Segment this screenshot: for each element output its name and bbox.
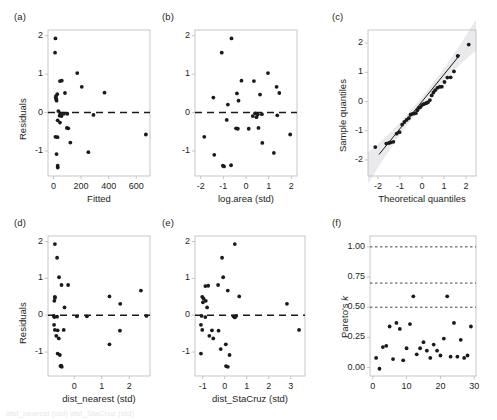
data-point	[226, 365, 230, 369]
data-point	[80, 85, 84, 89]
data-point	[56, 109, 60, 113]
data-point	[418, 346, 422, 350]
data-point	[251, 114, 255, 118]
data-point	[387, 141, 391, 145]
data-point	[234, 126, 238, 130]
data-point	[442, 337, 446, 341]
data-point	[425, 349, 429, 353]
data-point	[374, 356, 378, 360]
data-point	[288, 133, 292, 137]
data-point	[118, 329, 122, 333]
y-tick-label: 2	[320, 37, 363, 47]
data-point	[60, 79, 64, 83]
data-point	[62, 112, 66, 116]
data-point	[373, 145, 377, 149]
data-point	[86, 150, 90, 154]
data-point	[211, 337, 215, 341]
data-point	[54, 135, 58, 139]
data-point	[384, 142, 388, 146]
data-point	[199, 352, 203, 356]
data-point	[57, 337, 61, 341]
data-point	[400, 123, 404, 127]
panel-e-frame	[195, 236, 305, 376]
data-point	[415, 108, 419, 112]
data-point	[240, 79, 244, 83]
data-point	[422, 340, 426, 344]
data-point	[108, 342, 112, 346]
data-point	[391, 357, 395, 361]
panel-a-ylabel: Residuals	[17, 98, 28, 140]
data-point	[55, 256, 59, 260]
data-point	[200, 328, 204, 332]
data-point	[445, 76, 449, 80]
data-point	[435, 349, 439, 353]
data-point	[277, 91, 281, 95]
data-point	[55, 92, 59, 96]
data-point	[272, 151, 276, 155]
data-point	[402, 120, 406, 124]
data-point	[220, 51, 224, 55]
data-point	[391, 140, 395, 144]
data-point	[52, 299, 56, 303]
data-point	[257, 126, 261, 130]
data-point	[237, 295, 241, 299]
data-point	[65, 126, 69, 130]
data-point	[384, 344, 388, 348]
panel-c-frame	[368, 30, 476, 176]
data-point	[222, 164, 226, 168]
panel-label-f: (f)	[332, 217, 341, 228]
data-point	[55, 99, 59, 103]
data-point	[52, 323, 56, 327]
figure-canvas: (a)0200400600-1012FittedResiduals(b)-2-1…	[0, 0, 497, 420]
data-point	[52, 314, 56, 318]
data-point	[58, 353, 62, 357]
data-point	[205, 306, 209, 310]
data-point	[425, 101, 429, 105]
data-point	[226, 289, 230, 293]
data-point	[54, 334, 58, 338]
data-point	[405, 118, 409, 122]
data-point	[252, 79, 256, 83]
panel-d-plot	[0, 0, 497, 420]
data-point	[210, 328, 214, 332]
data-point	[226, 103, 230, 107]
data-point	[395, 132, 399, 136]
data-point	[207, 334, 211, 338]
data-point	[139, 289, 143, 293]
panel-a-frame	[48, 30, 150, 176]
data-point	[59, 111, 63, 115]
data-point	[432, 343, 436, 347]
data-point	[445, 294, 449, 298]
data-point	[388, 325, 392, 329]
data-point	[203, 315, 207, 319]
x-tick-label: 2	[109, 381, 149, 391]
data-point	[459, 338, 463, 342]
data-point	[53, 328, 57, 332]
y-tick-label: 1	[147, 272, 190, 282]
data-point	[229, 163, 233, 167]
data-point	[118, 302, 122, 306]
data-point	[258, 93, 262, 97]
data-point	[275, 113, 279, 117]
data-point	[60, 114, 64, 118]
data-point	[462, 356, 466, 360]
y-tick-label: -1	[0, 145, 43, 155]
data-point	[92, 113, 96, 117]
data-point	[428, 356, 432, 360]
panel-d-frame	[48, 236, 150, 376]
data-point	[58, 114, 62, 118]
data-point	[467, 43, 471, 47]
data-point	[60, 283, 64, 287]
data-point	[440, 85, 444, 89]
data-point	[266, 71, 270, 75]
data-point	[398, 327, 402, 331]
data-point	[56, 328, 60, 332]
x-tick-label: 2	[271, 181, 311, 191]
panel-f-plot	[0, 0, 497, 420]
data-point	[449, 355, 453, 359]
data-point	[224, 342, 228, 346]
data-point	[430, 94, 434, 98]
panel-label-d: (d)	[14, 217, 26, 228]
panel-a-xlabel: Fitted	[19, 193, 179, 204]
data-point	[204, 299, 208, 303]
